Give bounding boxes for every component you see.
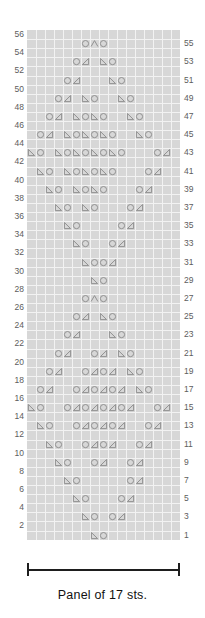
chart-symbol-ssk: [90, 276, 99, 285]
chart-symbol-ssk: [90, 185, 99, 194]
chart-symbol-yo: [144, 130, 153, 139]
row-number-33: 33: [184, 239, 204, 248]
chart-symbol-yo: [45, 112, 54, 121]
row-number-1: 1: [184, 531, 204, 540]
chart-symbol-yo: [108, 239, 117, 248]
chart-symbol-ssk: [117, 94, 126, 103]
chart-symbol-yo: [90, 167, 99, 176]
grid-row-line: [27, 503, 180, 504]
chart-symbol-ssk: [81, 130, 90, 139]
chart-symbol-ssk: [72, 112, 81, 121]
row-number-17: 17: [184, 385, 204, 394]
chart-symbol-k2tog: [63, 94, 72, 103]
chart-symbol-k2tog: [144, 440, 153, 449]
row-number-32: 32: [2, 248, 24, 257]
chart-symbol-yo: [144, 421, 153, 430]
chart-symbol-yo: [63, 148, 72, 157]
chart-symbol-yo: [108, 57, 117, 66]
row-number-10: 10: [2, 449, 24, 458]
chart-symbol-yo: [72, 57, 81, 66]
chart-symbol-k2tog: [90, 367, 99, 376]
chart-symbol-k2tog: [45, 385, 54, 394]
grid-row-line: [27, 303, 180, 304]
grid-row-line: [27, 285, 180, 286]
chart-symbol-ssk: [63, 130, 72, 139]
chart-symbol-yo: [90, 421, 99, 430]
chart-symbol-yo: [99, 531, 108, 540]
grid-row-line: [27, 212, 180, 213]
chart-symbol-k2tog: [144, 185, 153, 194]
grid-row-line: [27, 321, 180, 322]
chart-symbol-k2tog: [45, 130, 54, 139]
chart-symbol-yo: [81, 185, 90, 194]
chart-symbol-yo: [72, 167, 81, 176]
grid-row-line: [27, 330, 180, 331]
grid-row-line: [27, 194, 180, 195]
chart-symbol-yo: [99, 440, 108, 449]
chart-symbol-ssk: [63, 476, 72, 485]
chart-symbol-ssk: [27, 148, 36, 157]
chart-symbol-yo: [54, 349, 63, 358]
grid-row-line: [27, 449, 180, 450]
chart-symbol-ssk: [99, 57, 108, 66]
grid-row-line: [27, 139, 180, 140]
chart-symbol-ssk: [117, 349, 126, 358]
chart-symbol-yo: [81, 494, 90, 503]
row-number-41: 41: [184, 167, 204, 176]
chart-symbol-yo: [99, 185, 108, 194]
row-number-24: 24: [2, 321, 24, 330]
chart-symbol-yo: [72, 476, 81, 485]
chart-symbol-k2tog: [81, 421, 90, 430]
chart-symbol-ssk: [63, 167, 72, 176]
row-number-18: 18: [2, 376, 24, 385]
chart-symbol-yo: [81, 39, 90, 48]
chart-symbol-yo: [90, 94, 99, 103]
chart-symbol-ssk: [72, 239, 81, 248]
chart-symbol-yo: [45, 167, 54, 176]
row-number-51: 51: [184, 76, 204, 85]
chart-symbol-yo: [108, 385, 117, 394]
grid-row-line: [27, 358, 180, 359]
chart-symbol-yo: [72, 312, 81, 321]
chart-symbol-k2tog: [135, 203, 144, 212]
row-number-48: 48: [2, 103, 24, 112]
chart-symbol-ssk: [99, 312, 108, 321]
chart-symbol-yo: [126, 458, 135, 467]
chart-symbol-ssk: [81, 258, 90, 267]
chart-symbol-k2tog: [126, 221, 135, 230]
chart-symbol-cdd: [90, 39, 99, 48]
row-number-43: 43: [184, 148, 204, 157]
chart-symbol-ssk: [99, 167, 108, 176]
chart-symbol-k2tog: [90, 440, 99, 449]
row-number-12: 12: [2, 430, 24, 439]
chart-symbol-k2tog: [117, 385, 126, 394]
row-number-54: 54: [2, 48, 24, 57]
row-number-53: 53: [184, 57, 204, 66]
chart-symbol-yo: [81, 403, 90, 412]
row-number-20: 20: [2, 358, 24, 367]
chart-symbol-yo: [90, 458, 99, 467]
chart-symbol-yo: [36, 130, 45, 139]
chart-symbol-k2tog: [162, 148, 171, 157]
chart-symbol-ssk: [63, 221, 72, 230]
chart-symbol-k2tog: [108, 440, 117, 449]
chart-symbol-yo: [36, 403, 45, 412]
row-number-36: 36: [2, 212, 24, 221]
chart-symbol-yo: [99, 258, 108, 267]
row-number-55: 55: [184, 39, 204, 48]
chart-symbol-yo: [90, 130, 99, 139]
row-number-49: 49: [184, 94, 204, 103]
chart-symbol-k2tog: [81, 57, 90, 66]
chart-symbol-ssk: [108, 148, 117, 157]
chart-symbol-k2tog: [162, 403, 171, 412]
chart-symbol-yo: [90, 258, 99, 267]
chart-symbol-k2tog: [54, 112, 63, 121]
row-number-46: 46: [2, 121, 24, 130]
chart-symbol-ssk: [45, 440, 54, 449]
chart-symbol-yo: [81, 239, 90, 248]
chart-symbol-yo: [54, 440, 63, 449]
row-number-35: 35: [184, 221, 204, 230]
grid-row-line: [27, 221, 180, 222]
chart-symbol-yo: [90, 203, 99, 212]
chart-symbol-ssk: [45, 185, 54, 194]
